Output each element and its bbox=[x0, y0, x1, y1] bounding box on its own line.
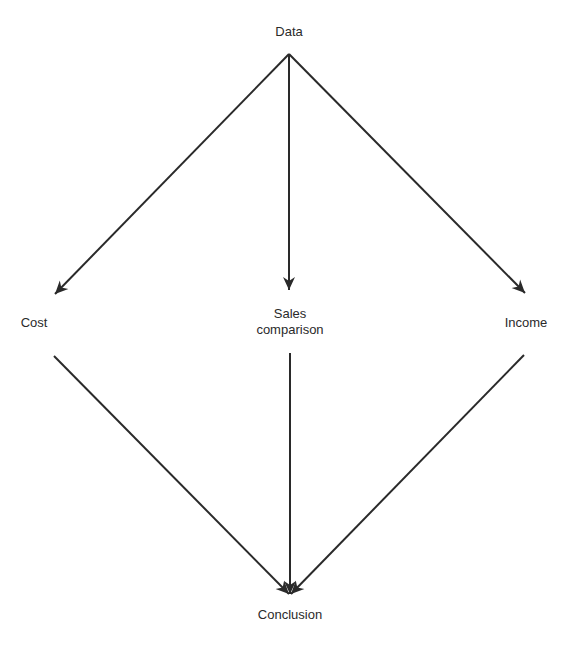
node-sales-line2: comparison bbox=[240, 322, 340, 338]
node-income-label: Income bbox=[486, 315, 566, 331]
edge-cost-to-conclusion bbox=[54, 356, 289, 594]
edge-data-to-cost bbox=[55, 54, 289, 294]
edge-income-to-conclusion bbox=[291, 355, 524, 594]
edge-data-to-income bbox=[289, 54, 525, 293]
node-sales-line1: Sales bbox=[240, 306, 340, 322]
node-sales-comparison-label: Sales comparison bbox=[240, 306, 340, 338]
node-data-label: Data bbox=[259, 24, 319, 40]
node-cost-label: Cost bbox=[4, 315, 64, 331]
node-conclusion-label: Conclusion bbox=[235, 607, 345, 623]
